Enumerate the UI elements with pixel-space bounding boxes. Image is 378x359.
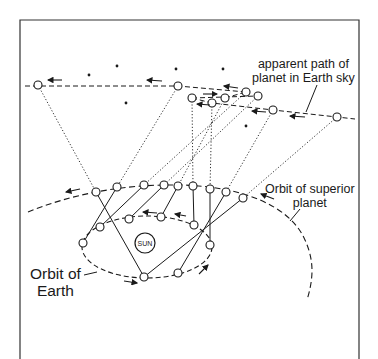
- earth-orbit-label-line2: Earth: [30, 282, 81, 299]
- sky-path: [25, 86, 355, 119]
- label-leaders: [84, 85, 317, 275]
- earth-orbit-label: Orbit of Earth: [30, 265, 81, 299]
- sun-label: SUN: [138, 240, 153, 247]
- position-markers: [34, 81, 341, 281]
- sky-path-label-line2: planet in Earth sky: [252, 72, 355, 86]
- sky-path-label-line1: apparent path of: [252, 58, 355, 72]
- superior-orbit-label: Orbit of superior planet: [265, 183, 355, 211]
- sky-path-label: apparent path of planet in Earth sky: [252, 58, 355, 86]
- earth-planet-lines: [83, 185, 243, 277]
- retrograde-diagram: SUN: [0, 0, 378, 359]
- superior-orbit-label-line2: planet: [265, 197, 355, 211]
- superior-orbit-label-line1: Orbit of superior: [265, 183, 355, 197]
- earth-orbit-label-line1: Orbit of: [30, 265, 81, 282]
